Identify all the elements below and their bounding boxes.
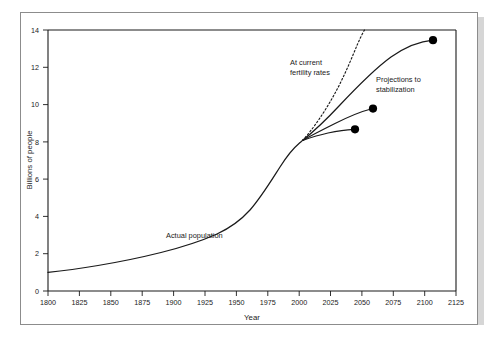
x-tick-label-1900: 1900 [166, 298, 182, 307]
x-axis-ticks: 1800 1825 1850 1875 1900 1925 1950 1975 … [40, 291, 464, 307]
x-tick-label-2125: 2125 [448, 298, 464, 307]
y-tick-label-14: 14 [31, 26, 39, 35]
y-tick-label-2: 2 [35, 249, 39, 258]
series-medium-projection [303, 109, 371, 140]
x-tick-label-2025: 2025 [323, 298, 339, 307]
annotation-projections-to-stabilization: Projections to stabilization [376, 75, 421, 94]
y-tick-label-4: 4 [35, 212, 39, 221]
annotation-fertility-line2: fertility rates [290, 68, 330, 77]
y-tick-label-0: 0 [35, 287, 39, 296]
annotation-fertility-line1: At current [290, 58, 322, 67]
y-tick-label-6: 6 [35, 175, 39, 184]
y-tick-label-8: 8 [35, 138, 39, 147]
endpoint-dot-high-projection [429, 36, 437, 44]
annotation-projections-line2: stabilization [376, 85, 415, 94]
figure-card: 0 2 4 6 8 10 12 14 1800 1825 [20, 12, 478, 325]
x-axis-title: Year [244, 313, 260, 322]
x-tick-label-2050: 2050 [354, 298, 370, 307]
x-tick-label-2000: 2000 [291, 298, 307, 307]
x-tick-label-2100: 2100 [417, 298, 433, 307]
x-tick-label-1975: 1975 [260, 298, 276, 307]
x-tick-label-1850: 1850 [103, 298, 119, 307]
x-tick-label-1875: 1875 [134, 298, 150, 307]
population-line-chart: 0 2 4 6 8 10 12 14 1800 1825 [21, 13, 479, 326]
x-tick-label-2075: 2075 [385, 298, 401, 307]
x-tick-label-1950: 1950 [228, 298, 244, 307]
y-tick-label-10: 10 [31, 100, 39, 109]
y-axis-title: Billions of people [25, 131, 34, 190]
endpoint-dot-medium-projection [369, 105, 377, 113]
annotation-projections-line1: Projections to [376, 75, 421, 84]
annotation-at-current-fertility-rates: At current fertility rates [290, 58, 330, 77]
x-tick-label-1925: 1925 [197, 298, 213, 307]
annotation-actual-population: Actual population [166, 231, 223, 240]
y-tick-label-12: 12 [31, 63, 39, 72]
x-tick-label-1825: 1825 [71, 298, 87, 307]
series-actual-population [48, 140, 303, 272]
endpoint-dot-low-projection [351, 125, 359, 133]
x-tick-label-1800: 1800 [40, 298, 56, 307]
